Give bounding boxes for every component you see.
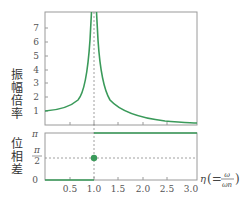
svg-text:0.5: 0.5 — [63, 184, 78, 194]
svg-text:2: 2 — [34, 156, 40, 166]
svg-text:0: 0 — [32, 175, 38, 185]
svg-text:7: 7 — [33, 23, 39, 33]
svg-text:2.5: 2.5 — [160, 184, 175, 194]
svg-text:3.0: 3.0 — [184, 184, 199, 194]
upper-y-tick-labels: 7 6 5 4 3 2 1 — [33, 23, 39, 116]
svg-text:3: 3 — [33, 78, 39, 88]
svg-text:2: 2 — [33, 92, 39, 102]
resonance-chart: 7 6 5 4 3 2 1 π π 2 0 0.5 1.0 1.5 2.0 2.… — [0, 0, 246, 204]
lower-plot-frame — [45, 133, 197, 180]
svg-text:(=: (= — [207, 172, 222, 186]
svg-text:ω: ω — [224, 171, 230, 179]
svg-text:π: π — [33, 145, 41, 155]
svg-text:): ) — [235, 172, 240, 186]
x-axis-label: η (= ω ωn ) — [200, 171, 240, 189]
svg-text:η: η — [200, 173, 206, 184]
phase-curve — [45, 133, 197, 180]
lower-y-axis-label: 位相差 — [8, 136, 22, 176]
svg-text:1.0: 1.0 — [87, 184, 102, 194]
svg-text:1: 1 — [33, 106, 39, 116]
svg-text:ωn: ωn — [222, 181, 233, 189]
svg-text:5: 5 — [33, 51, 39, 61]
svg-text:π: π — [31, 129, 39, 139]
x-tick-labels: 0.5 1.0 1.5 2.0 2.5 3.0 — [63, 184, 199, 194]
svg-text:1.5: 1.5 — [111, 184, 126, 194]
lower-y-tick-labels: π π 2 0 — [31, 129, 42, 185]
amplitude-curve — [45, 12, 197, 123]
svg-text:6: 6 — [33, 37, 39, 47]
svg-text:2.0: 2.0 — [136, 184, 151, 194]
upper-y-axis-label: 振幅倍率 — [8, 68, 22, 120]
resonance-point — [91, 155, 97, 161]
svg-text:4: 4 — [33, 65, 39, 75]
